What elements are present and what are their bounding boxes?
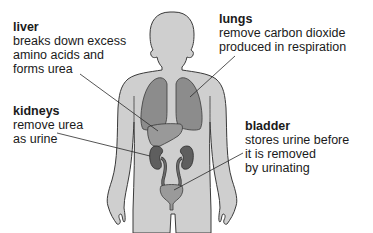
bladder-title: bladder bbox=[245, 119, 365, 133]
kidneys-label: kidneys remove urea as urine bbox=[13, 104, 93, 146]
bladder-desc-line-2: it is removed bbox=[245, 147, 365, 161]
lungs-title: lungs bbox=[219, 12, 369, 26]
liver-title: liver bbox=[13, 20, 133, 34]
kidneys-desc-line-1: remove urea bbox=[13, 118, 93, 132]
liver-desc-line-3: forms urea bbox=[13, 62, 133, 76]
bladder-label: bladder stores urine before it is remove… bbox=[245, 119, 365, 175]
bladder-desc-line-3: by urinating bbox=[245, 161, 365, 175]
lungs-desc-line-1: remove carbon dioxide bbox=[219, 26, 369, 40]
kidneys-desc-line-2: as urine bbox=[13, 132, 93, 146]
lungs-label: lungs remove carbon dioxide produced in … bbox=[219, 12, 369, 54]
liver-desc-line-2: amino acids and bbox=[13, 48, 133, 62]
bladder-desc-line-1: stores urine before bbox=[245, 133, 365, 147]
kidneys-title: kidneys bbox=[13, 104, 93, 118]
lungs-desc-line-2: produced in respiration bbox=[219, 40, 369, 54]
liver-desc-line-1: breaks down excess bbox=[13, 34, 133, 48]
liver-label: liver breaks down excess amino acids and… bbox=[13, 20, 133, 76]
